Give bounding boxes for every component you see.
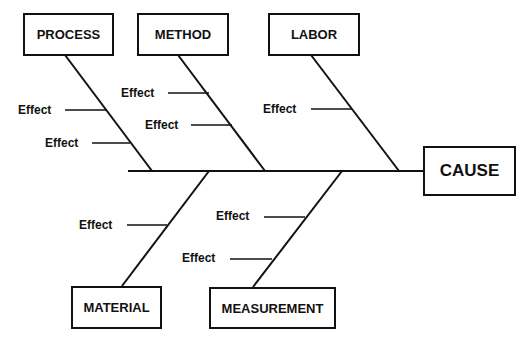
bone-labor [311, 55, 399, 171]
category-box-material: MATERIAL [71, 286, 162, 329]
category-label: LABOR [291, 27, 337, 42]
cause-label: CAUSE [440, 161, 500, 181]
effect-label: Effect [263, 102, 296, 116]
effect-label: Effect [45, 136, 78, 150]
effect-label: Effect [145, 118, 178, 132]
effect-label: Effect [182, 251, 215, 265]
category-box-process: PROCESS [23, 13, 114, 56]
category-label: PROCESS [37, 27, 101, 42]
category-box-measurement: MEASUREMENT [209, 287, 336, 329]
category-label: MEASUREMENT [222, 301, 324, 316]
bone-method [178, 55, 265, 171]
bone-process [65, 55, 152, 171]
bone-measurement [253, 171, 342, 287]
effect-label: Effect [18, 103, 51, 117]
category-box-method: METHOD [137, 13, 229, 56]
effect-label: Effect [216, 209, 249, 223]
bone-material [122, 171, 209, 286]
effect-label: Effect [79, 218, 112, 232]
category-label: METHOD [155, 27, 211, 42]
category-box-labor: LABOR [268, 13, 360, 56]
cause-box: CAUSE [423, 146, 516, 196]
effect-label: Effect [121, 86, 154, 100]
category-label: MATERIAL [83, 300, 149, 315]
